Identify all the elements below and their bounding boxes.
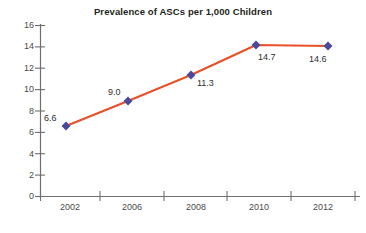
data-point-label: 6.6 [44,114,57,123]
data-point-label: 11.3 [197,79,214,88]
data-point-marker [61,121,70,130]
data-point-label: 9.0 [108,88,121,97]
data-point-label: 14.7 [258,53,276,62]
chart-container: Prevalence of ASCs per 1,000 Children 16… [0,0,366,233]
data-point-marker [251,40,260,49]
data-point-label: 14.6 [309,55,327,64]
data-point-marker [323,41,332,50]
data-point-marker [186,70,195,79]
data-point-marker [123,96,132,105]
